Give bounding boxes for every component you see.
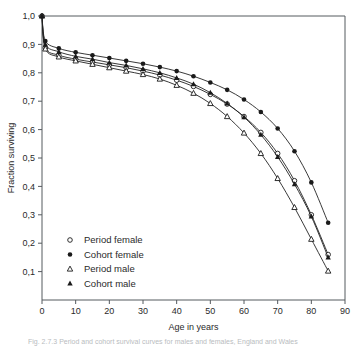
legend-marker-open-circle xyxy=(68,238,73,243)
data-series xyxy=(39,13,331,259)
data-point xyxy=(326,220,331,225)
y-axis-title: Fraction surviving xyxy=(6,123,16,194)
x-tick-label: 80 xyxy=(306,306,316,316)
x-tick-label: 70 xyxy=(273,306,283,316)
y-tick-label: 0,8 xyxy=(22,68,35,78)
data-point xyxy=(242,97,247,102)
x-tick-label: 10 xyxy=(71,306,81,316)
y-tick-label: 0,2 xyxy=(22,238,35,248)
x-tick-label: 90 xyxy=(340,306,350,316)
x-tick-label: 60 xyxy=(239,306,249,316)
data-point xyxy=(325,268,330,273)
x-axis: 0102030405060708090 xyxy=(39,300,350,316)
data-point xyxy=(292,205,297,210)
y-tick-label: 0,4 xyxy=(22,182,35,192)
y-tick-label: 0,1 xyxy=(22,267,35,277)
data-point xyxy=(208,90,213,95)
y-tick-label: 0,7 xyxy=(22,96,35,106)
y-tick-label: 0,9 xyxy=(22,40,35,50)
data-series xyxy=(40,14,331,257)
figure-caption: Fig. 2.7.3 Period and cohort survival cu… xyxy=(28,337,358,346)
data-point xyxy=(141,61,146,66)
data-point xyxy=(158,65,163,70)
legend-marker-filled-triangle xyxy=(67,281,72,286)
x-tick-label: 20 xyxy=(104,306,114,316)
data-point xyxy=(259,110,264,115)
survival-chart: 0,10,20,30,40,50,60,70,80,91,00102030405… xyxy=(0,0,362,347)
data-point xyxy=(174,69,179,74)
data-point xyxy=(309,180,314,185)
legend-label: Period male xyxy=(84,263,135,274)
data-point xyxy=(225,88,230,93)
x-tick-label: 0 xyxy=(39,306,44,316)
legend-label: Period female xyxy=(84,234,143,245)
data-point xyxy=(208,80,213,85)
series-line xyxy=(42,16,328,255)
x-axis-title: Age in years xyxy=(168,322,219,332)
data-point xyxy=(208,101,213,106)
data-point xyxy=(292,149,297,154)
x-tick-label: 40 xyxy=(172,306,182,316)
survival-curve-figure: 0,10,20,30,40,50,60,70,80,91,00102030405… xyxy=(0,0,362,347)
y-tick-label: 0,5 xyxy=(22,153,35,163)
data-point xyxy=(107,56,112,61)
x-tick-label: 30 xyxy=(138,306,148,316)
data-point xyxy=(275,176,280,181)
y-tick-label: 0,3 xyxy=(22,210,35,220)
series-line xyxy=(42,16,328,257)
legend-marker-filled-circle xyxy=(68,252,73,257)
legend-label: Cohort male xyxy=(84,278,136,289)
x-tick-label: 50 xyxy=(205,306,215,316)
data-point xyxy=(275,126,280,131)
data-point xyxy=(191,90,196,95)
y-tick-label: 1,0 xyxy=(22,11,35,21)
legend-label: Cohort female xyxy=(84,249,144,260)
legend: Period femaleCohort femalePeriod maleCoh… xyxy=(67,234,143,289)
data-point xyxy=(191,74,196,79)
data-point xyxy=(309,236,314,241)
legend-marker-open-triangle xyxy=(67,266,72,271)
y-tick-label: 0,6 xyxy=(22,125,35,135)
data-point xyxy=(124,59,129,64)
y-axis: 0,10,20,30,40,50,60,70,80,91,0 xyxy=(22,11,42,277)
